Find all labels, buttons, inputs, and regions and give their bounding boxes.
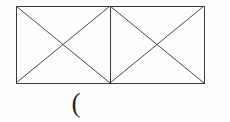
figure-canvas: (: [0, 0, 230, 122]
geometric-figure: [0, 0, 230, 122]
